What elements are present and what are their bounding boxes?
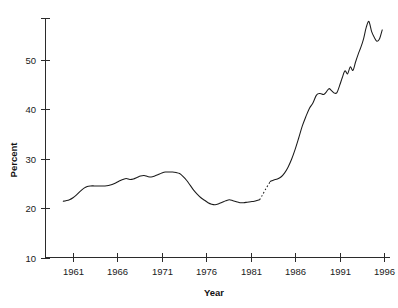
y-axis-title: Percent: [8, 142, 19, 178]
x-tick-label: 1961: [63, 266, 84, 277]
x-axis-title: Year: [204, 287, 224, 298]
series-path: [270, 21, 382, 181]
y-tick-label: 30: [25, 154, 36, 165]
data-series-group: [63, 21, 382, 204]
y-tick-labels: 1020304050: [25, 55, 36, 264]
x-axis: 19611966197119761981198619911996 Year: [46, 253, 396, 298]
x-tick-label: 1996: [374, 266, 395, 277]
y-tick-label: 20: [25, 203, 36, 214]
x-tick-label: 1976: [196, 266, 217, 277]
x-tick-label: 1991: [330, 266, 351, 277]
chart-container: 1020304050 Percent 196119661971197619811…: [0, 0, 398, 308]
y-tick-label: 10: [25, 253, 36, 264]
y-tick-label: 40: [25, 104, 36, 115]
x-tick-label: 1986: [285, 266, 306, 277]
series-break-path: [260, 181, 271, 199]
x-tick-label: 1981: [241, 266, 262, 277]
x-tick-labels: 19611966197119761981198619911996: [63, 266, 395, 277]
y-tick-label: 50: [25, 55, 36, 66]
series-path: [63, 172, 259, 205]
line-chart: 1020304050 Percent 196119661971197619811…: [0, 0, 398, 308]
x-tick-label: 1966: [107, 266, 128, 277]
y-axis: 1020304050 Percent: [8, 18, 50, 264]
x-tick-label: 1971: [152, 266, 173, 277]
